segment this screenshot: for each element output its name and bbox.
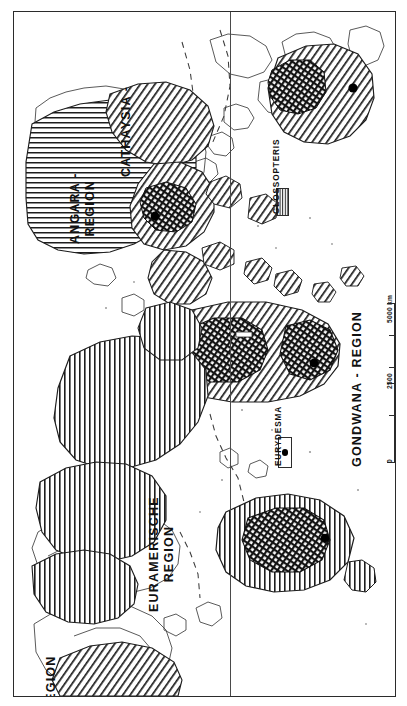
scale-bar: 5000 km 2500 0 — [376, 303, 396, 463]
region-gondwana-north — [268, 44, 374, 144]
scale-tick-3000 — [389, 367, 395, 368]
label-region-partial: REGION — [44, 655, 58, 697]
eurydesma-dot-north — [348, 83, 357, 92]
legend-label-eurydesma: EURYDESMA — [274, 406, 283, 466]
region-euramerische — [32, 302, 208, 624]
eurydesma-dot-central — [310, 359, 319, 368]
label-euramerische-region: EURAMERISCHE REGION — [147, 496, 177, 612]
map-geometry — [14, 12, 395, 696]
label-angara-region: ANGARA - REGION — [68, 172, 98, 244]
legend-label-glossopteris: GLOSSOPTERIS — [272, 139, 281, 214]
eurydesma-dot-australia — [321, 534, 330, 543]
map-frame: ANGARA - REGION CATHAYSIA - EURAMERISCHE… — [13, 11, 396, 697]
label-gondwana-region: GONDWANA - REGION — [350, 311, 364, 467]
region-cut-bottom — [52, 642, 182, 696]
region-gondwana-australia — [216, 494, 376, 592]
meridian-line — [230, 12, 231, 696]
scale-label-mid: 2500 — [386, 373, 393, 389]
scale-tick-1000 — [389, 415, 395, 416]
eurydesma-dot-angara — [151, 212, 160, 221]
scale-tick-4000 — [389, 335, 395, 336]
paleogeographic-map-figure: ANGARA - REGION CATHAYSIA - EURAMERISCHE… — [0, 0, 407, 706]
scale-label-zero: 0 — [386, 459, 393, 463]
label-cathaysia-region: CATHAYSIA - — [119, 86, 133, 177]
scale-label-max: 5000 km — [386, 295, 393, 323]
